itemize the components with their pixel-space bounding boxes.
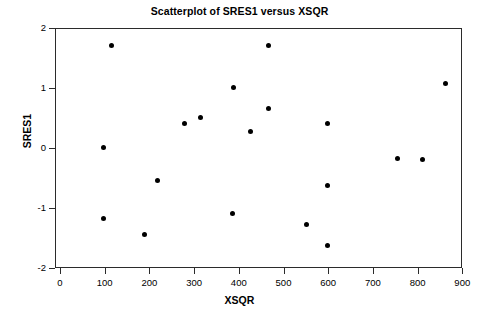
data-point xyxy=(248,129,253,134)
y-axis-tick-label: -2 xyxy=(28,262,46,273)
data-point xyxy=(325,243,330,248)
x-axis-tick-label: 300 xyxy=(186,277,202,288)
y-axis-tick-label: 2 xyxy=(28,22,46,33)
x-axis-tick xyxy=(194,268,195,274)
data-point xyxy=(420,157,425,162)
data-point xyxy=(101,216,106,221)
y-axis-tick xyxy=(49,28,55,29)
x-axis-tick-label: 700 xyxy=(365,277,381,288)
data-point xyxy=(266,106,271,111)
x-axis-tick-label: 500 xyxy=(276,277,292,288)
data-point xyxy=(155,178,160,183)
data-point xyxy=(101,145,106,150)
data-point xyxy=(231,85,236,90)
data-point xyxy=(230,211,235,216)
data-point xyxy=(395,156,400,161)
y-axis-tick xyxy=(49,268,55,269)
x-axis-tick xyxy=(239,268,240,274)
y-axis-tick xyxy=(49,88,55,89)
x-axis-tick-label: 100 xyxy=(97,277,113,288)
data-point xyxy=(266,43,271,48)
x-axis-tick-label: 600 xyxy=(320,277,336,288)
data-point xyxy=(443,81,448,86)
data-point xyxy=(109,43,114,48)
x-axis-tick xyxy=(328,268,329,274)
x-axis-tick xyxy=(418,268,419,274)
x-axis-tick xyxy=(284,268,285,274)
x-axis-tick xyxy=(105,268,106,274)
y-axis-tick xyxy=(49,148,55,149)
y-axis-tick xyxy=(49,208,55,209)
x-axis-tick xyxy=(373,268,374,274)
data-points-layer xyxy=(56,29,461,267)
data-point xyxy=(198,115,203,120)
x-axis-title: XSQR xyxy=(0,294,479,306)
data-point xyxy=(304,222,309,227)
chart-title: Scatterplot of SRES1 versus XSQR xyxy=(0,5,479,17)
data-point xyxy=(325,121,330,126)
x-axis-tick xyxy=(462,268,463,274)
data-point xyxy=(182,121,187,126)
y-axis-tick-label: -1 xyxy=(28,202,46,213)
data-point xyxy=(142,232,147,237)
x-axis-tick xyxy=(149,268,150,274)
x-axis-tick-label: 0 xyxy=(57,277,62,288)
x-axis-tick-label: 900 xyxy=(454,277,470,288)
data-point xyxy=(325,183,330,188)
x-axis-tick xyxy=(60,268,61,274)
y-axis-tick-label: 0 xyxy=(28,142,46,153)
x-axis-tick-label: 200 xyxy=(141,277,157,288)
x-axis-tick-label: 400 xyxy=(231,277,247,288)
y-axis-tick-label: 1 xyxy=(28,82,46,93)
plot-area xyxy=(55,28,462,268)
scatterplot-figure: Scatterplot of SRES1 versus XSQR SRES1 X… xyxy=(0,0,479,318)
x-axis-tick-label: 800 xyxy=(410,277,426,288)
